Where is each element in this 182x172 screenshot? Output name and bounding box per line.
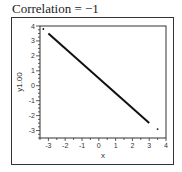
x-tick-label: 4 — [164, 142, 168, 149]
scatter-plot: -3-2-101234-3-2-101234xy1.00 — [0, 0, 182, 172]
y-tick-label: -2 — [29, 112, 35, 119]
data-points — [48, 33, 149, 123]
y-axis-label: y1.00 — [15, 72, 24, 92]
y-tick-label: 0 — [31, 82, 35, 89]
x-tick-label: 0 — [97, 142, 101, 149]
y-tick-label: 2 — [31, 52, 35, 59]
x-tick-label: 1 — [114, 142, 118, 149]
x-axis-label: x — [101, 151, 105, 160]
y-tick-label: -1 — [29, 97, 35, 104]
x-tick-label: -2 — [62, 142, 68, 149]
y-tick-label: 3 — [31, 37, 35, 44]
x-tick-label: 2 — [130, 142, 134, 149]
data-point — [157, 128, 159, 130]
y-tick-label: 1 — [31, 67, 35, 74]
y-tick-label: -3 — [29, 127, 35, 134]
x-tick-label: -1 — [79, 142, 85, 149]
data-point — [42, 28, 44, 30]
x-tick-label: -3 — [45, 142, 51, 149]
x-tick-label: 3 — [147, 142, 151, 149]
y-tick-label: 4 — [31, 23, 35, 30]
